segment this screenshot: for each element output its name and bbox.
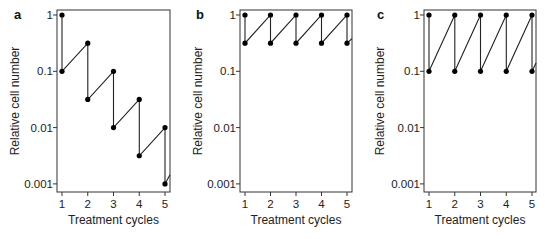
data-point xyxy=(162,181,167,186)
panel-c: 10.10.010.00112345Treatment cyclesRelati… xyxy=(373,7,536,227)
x-axis-title: Treatment cycles xyxy=(68,213,159,227)
x-tick-label: 2 xyxy=(85,198,91,210)
data-point xyxy=(85,97,90,102)
data-point xyxy=(529,12,534,17)
data-point xyxy=(529,69,534,74)
x-axis-title: Treatment cycles xyxy=(435,213,526,227)
x-tick-label: 1 xyxy=(242,198,248,210)
x-tick-label: 2 xyxy=(267,198,273,210)
y-tick-label: 0.1 xyxy=(37,65,53,77)
data-point xyxy=(293,41,298,46)
data-point xyxy=(426,12,431,17)
data-point xyxy=(242,12,247,17)
panel-a: 10.10.010.00112345Treatment cyclesRelati… xyxy=(8,7,170,227)
y-tick-label: 0.1 xyxy=(404,65,420,77)
data-point xyxy=(504,69,509,74)
data-point xyxy=(319,12,324,17)
x-tick-label: 5 xyxy=(162,198,168,210)
data-point xyxy=(59,69,64,74)
y-tick-label: 0.01 xyxy=(398,122,420,134)
x-tick-label: 3 xyxy=(110,198,116,210)
data-point xyxy=(137,97,142,102)
y-axis-title: Relative cell number xyxy=(191,47,205,156)
x-axis-title: Treatment cycles xyxy=(251,213,342,227)
data-point xyxy=(85,41,90,46)
panel-b: 10.10.010.00112345Treatment cyclesRelati… xyxy=(191,7,352,227)
y-tick-label: 0.001 xyxy=(207,178,236,190)
y-tick-label: 0.001 xyxy=(24,178,53,190)
x-tick-label: 2 xyxy=(452,198,458,210)
x-tick-label: 4 xyxy=(503,198,510,210)
figure: 10.10.010.00112345Treatment cyclesRelati… xyxy=(0,0,545,239)
y-axis-title: Relative cell number xyxy=(373,47,387,156)
y-tick-label: 0.001 xyxy=(391,178,420,190)
data-point xyxy=(478,69,483,74)
data-point xyxy=(452,12,457,17)
panel-letter: a xyxy=(14,7,22,22)
y-axis-title: Relative cell number xyxy=(8,47,22,156)
data-point xyxy=(162,125,167,130)
x-tick-label: 1 xyxy=(426,198,432,210)
y-tick-label: 1 xyxy=(414,9,420,21)
data-point xyxy=(293,12,298,17)
data-point xyxy=(59,12,64,17)
y-tick-label: 1 xyxy=(230,9,236,21)
data-line xyxy=(429,15,536,71)
x-tick-label: 4 xyxy=(318,198,325,210)
panel-letter: c xyxy=(377,7,384,22)
x-tick-label: 1 xyxy=(59,198,65,210)
data-point xyxy=(111,125,116,130)
x-tick-label: 4 xyxy=(136,198,143,210)
data-point xyxy=(426,69,431,74)
data-point xyxy=(268,12,273,17)
data-point xyxy=(268,41,273,46)
x-tick-label: 5 xyxy=(344,198,350,210)
x-tick-label: 3 xyxy=(477,198,483,210)
y-tick-label: 0.01 xyxy=(31,122,53,134)
y-tick-label: 0.01 xyxy=(214,122,236,134)
panel-letter: b xyxy=(196,7,204,22)
data-point xyxy=(242,41,247,46)
y-tick-label: 0.1 xyxy=(220,65,236,77)
x-tick-label: 3 xyxy=(293,198,299,210)
data-line xyxy=(245,15,352,43)
data-point xyxy=(344,41,349,46)
data-point xyxy=(137,153,142,158)
x-tick-label: 5 xyxy=(529,198,535,210)
data-point xyxy=(111,69,116,74)
data-point xyxy=(504,12,509,17)
y-tick-label: 1 xyxy=(47,9,53,21)
data-point xyxy=(319,41,324,46)
data-point xyxy=(452,69,457,74)
data-point xyxy=(344,12,349,17)
data-point xyxy=(478,12,483,17)
data-line xyxy=(62,15,170,184)
